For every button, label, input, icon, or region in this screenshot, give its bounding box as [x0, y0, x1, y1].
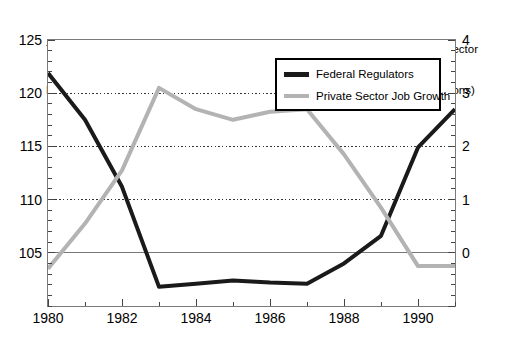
legend-label-federal-regulators: Federal Regulators	[316, 68, 414, 80]
right-axis-tick-label-4: 4	[462, 32, 492, 48]
left-axis-tick-label-115: 115	[6, 138, 42, 154]
series-line-private-sector-job-growth	[48, 88, 455, 269]
x-axis-tick-label-1982: 1982	[106, 310, 137, 326]
x-axis-tick-label-1990: 1990	[402, 310, 433, 326]
legend-entry-private-sector-job-growth: Private Sector Job Growth	[284, 86, 450, 106]
x-axis-tick-label-1986: 1986	[254, 310, 285, 326]
right-axis-tick-label-0: 0	[462, 245, 492, 261]
right-axis-tick-label-3: 3	[462, 85, 492, 101]
chart-figure: Total Federal Regulators (Thousands) Ann…	[0, 0, 505, 342]
legend-label-private-sector-job-growth: Private Sector Job Growth	[316, 90, 450, 102]
right-axis-tick-label-2: 2	[462, 138, 492, 154]
x-axis-tick-label-1988: 1988	[328, 310, 359, 326]
legend-swatch-federal-regulators	[284, 72, 309, 77]
right-axis-tick-label-1: 1	[462, 192, 492, 208]
x-axis-tick-label-1980: 1980	[32, 310, 63, 326]
x-axis-tick-label-1984: 1984	[180, 310, 211, 326]
left-axis-tick-label-120: 120	[6, 85, 42, 101]
chart-legend: Federal Regulators Private Sector Job Gr…	[275, 58, 441, 111]
left-axis-tick-label-125: 125	[6, 32, 42, 48]
left-axis-tick-label-105: 105	[6, 245, 42, 261]
legend-swatch-private-sector-job-growth	[284, 94, 309, 98]
left-axis-tick-label-110: 110	[6, 192, 42, 208]
legend-entry-federal-regulators: Federal Regulators	[284, 64, 414, 84]
